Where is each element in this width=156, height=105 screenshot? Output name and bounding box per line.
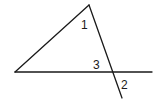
angle-1-label: 1 bbox=[81, 18, 88, 32]
angle-2-label: 2 bbox=[121, 78, 128, 92]
left-side-line bbox=[15, 5, 89, 72]
angle-3-label: 3 bbox=[93, 58, 100, 72]
angle-diagram: 1 3 2 bbox=[0, 0, 156, 105]
transversal-line bbox=[89, 5, 122, 98]
